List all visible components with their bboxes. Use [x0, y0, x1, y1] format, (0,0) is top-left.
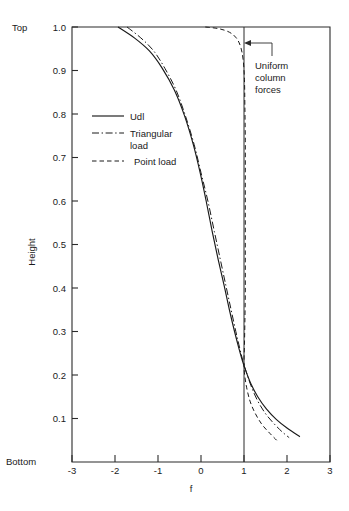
x-tick-label-1: 1	[241, 465, 246, 476]
bottom-end-label: Bottom	[6, 456, 36, 467]
y-tick-label-0.7: 0.7	[53, 152, 66, 163]
y-tick-label-0.1: 0.1	[53, 413, 66, 424]
y-axis-ticks	[72, 27, 78, 419]
plot-frame	[72, 27, 330, 462]
x-axis-title: f	[190, 483, 193, 494]
y-axis-tick-labels: 1.0 0.9 0.8 0.7 0.6 0.5 0.4 0.3 0.2 0.1	[53, 22, 66, 425]
annotation-line-2: column	[255, 72, 286, 83]
chart-figure: 1.0 0.9 0.8 0.7 0.6 0.5 0.4 0.3 0.2 0.1 …	[0, 0, 349, 511]
y-tick-label-0.5: 0.5	[53, 239, 66, 250]
annotation-arrow-icon	[244, 40, 251, 46]
chart-svg: 1.0 0.9 0.8 0.7 0.6 0.5 0.4 0.3 0.2 0.1 …	[0, 0, 349, 511]
y-tick-label-1.0: 1.0	[53, 22, 66, 33]
top-end-label: Top	[12, 22, 27, 33]
uniform-column-forces-annotation: Uniform column forces	[244, 40, 288, 95]
legend-label-point-load: Point load	[134, 156, 176, 167]
y-tick-label-0.2: 0.2	[53, 370, 66, 381]
x-tick-label-0: 0	[198, 465, 203, 476]
y-tick-label-0.9: 0.9	[53, 65, 66, 76]
x-tick-label--1: -1	[154, 465, 162, 476]
x-axis-ticks	[72, 455, 330, 462]
y-tick-label-0.4: 0.4	[53, 283, 66, 294]
y-axis-title: Height	[26, 238, 37, 266]
legend-label-triangular-load: Triangular	[130, 128, 172, 139]
annotation-line-1: Uniform	[255, 60, 288, 71]
x-axis-tick-labels: -3 -2 -1 0 1 2 3	[68, 465, 333, 476]
y-tick-label-0.3: 0.3	[53, 326, 66, 337]
y-tick-label-0.8: 0.8	[53, 109, 66, 120]
legend-label-triangular-load-line2: load	[130, 140, 148, 151]
y-tick-label-0.6: 0.6	[53, 196, 66, 207]
annotation-leader-line	[248, 43, 272, 56]
x-tick-label--3: -3	[68, 465, 76, 476]
x-tick-label-2: 2	[284, 465, 289, 476]
plot-border	[72, 27, 330, 462]
legend-label-udl: Udl	[130, 111, 144, 122]
chart-legend: Udl Triangular load Point load	[92, 111, 176, 167]
annotation-line-3: forces	[255, 84, 281, 95]
x-tick-label--2: -2	[111, 465, 119, 476]
x-tick-label-3: 3	[327, 465, 332, 476]
